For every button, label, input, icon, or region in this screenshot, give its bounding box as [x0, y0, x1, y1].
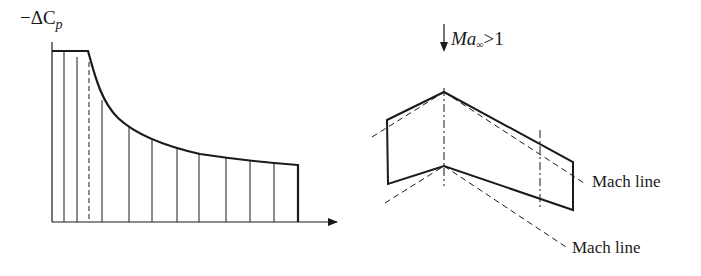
- freestream-mach-label: Ma∞>1: [450, 28, 504, 50]
- figure-canvas: −ΔCp Ma∞>1: [0, 0, 701, 276]
- swept-wing-diagram: Ma∞>1 Mach line Mach line: [372, 24, 660, 257]
- arrow-down-icon: [440, 42, 448, 52]
- y-axis-label: −ΔCp: [20, 7, 63, 32]
- pressure-distribution-chart: −ΔCp: [20, 7, 337, 222]
- mach-line-label-lower: Mach line: [572, 238, 640, 257]
- mach-line-label-upper: Mach line: [592, 172, 660, 191]
- mach-lines: [372, 92, 584, 247]
